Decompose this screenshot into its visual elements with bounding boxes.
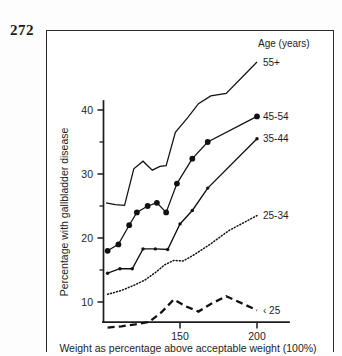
- data-point: [145, 203, 151, 209]
- y-tick-label-10: 10: [81, 296, 93, 308]
- series-label-layer: 55+45-5435-4425-34‹ 25: [263, 57, 289, 316]
- data-point: [189, 156, 195, 162]
- data-point: [191, 209, 194, 212]
- y-tick-label-20: 20: [81, 232, 93, 244]
- series-label-35-44: 35-44: [263, 133, 289, 144]
- x-tick-label-150: 150: [171, 330, 189, 342]
- y-tick-label-40: 40: [81, 104, 93, 116]
- y-axis-title: Percentage with gallbladder disease: [58, 127, 70, 296]
- series-label--25: ‹ 25: [263, 305, 281, 316]
- data-point: [116, 242, 122, 248]
- data-point: [154, 200, 160, 206]
- chart-plot-area: 40 30 20 10 150 200 Percentage with gall…: [0, 0, 342, 356]
- data-point: [118, 267, 121, 270]
- data-point: [105, 248, 111, 254]
- data-point: [154, 247, 157, 250]
- series-label-55-: 55+: [263, 57, 280, 68]
- data-point: [141, 247, 144, 250]
- series-line-35-44: [108, 139, 257, 273]
- data-point: [131, 267, 134, 270]
- y-axis-ticks: [98, 110, 104, 302]
- data-point: [166, 248, 169, 251]
- series-layer: [106, 62, 257, 328]
- data-point: [126, 222, 132, 228]
- data-point: [255, 137, 258, 140]
- data-point: [205, 139, 211, 145]
- data-point: [178, 222, 181, 225]
- y-tick-label-30: 30: [81, 168, 93, 180]
- data-point: [106, 272, 109, 275]
- series-line-55-: [106, 62, 257, 205]
- data-point: [163, 210, 169, 216]
- legend-title: Age (years): [258, 38, 310, 49]
- figure-page: 272 40 30 20 10 150 200: [0, 0, 342, 356]
- data-point: [254, 114, 260, 120]
- x-axis-title: Weight as percentage above acceptable we…: [59, 342, 316, 354]
- data-point: [134, 210, 140, 216]
- data-point: [174, 181, 180, 187]
- data-point: [206, 186, 209, 189]
- series-label-25-34: 25-34: [263, 210, 289, 221]
- x-tick-label-200: 200: [248, 330, 266, 342]
- series-label-45-54: 45-54: [263, 111, 289, 122]
